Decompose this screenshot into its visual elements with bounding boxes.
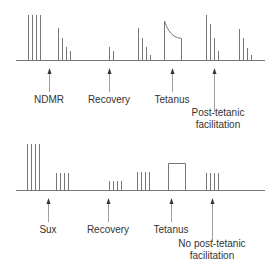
arrow-up-icon [107, 198, 111, 204]
label-post-tetanic-line2: facilitation [186, 119, 250, 131]
label-sux: Sux [33, 224, 63, 236]
arrow-up-icon [48, 68, 52, 74]
label-recovery: Recovery [84, 94, 134, 106]
ndmr-trace [16, 15, 265, 61]
label-tetanus: Tetanus [150, 94, 194, 106]
tetanus-sustained-box [169, 164, 186, 191]
arrow-up-icon [171, 68, 175, 74]
sux-trace [16, 144, 265, 191]
arrow-up-icon [213, 68, 217, 74]
tetanus-fade-curve [165, 21, 182, 60]
label-no-post-tetanic-line1: No post-tetanic [172, 238, 252, 250]
label-tetanus-2: Tetanus [149, 224, 193, 236]
label-post-tetanic-line1: Post-tetanic [186, 107, 250, 119]
arrow-up-icon [108, 68, 112, 74]
arrow-up-icon [170, 198, 174, 204]
label-ndmr: NDMR [29, 94, 69, 106]
label-recovery-2: Recovery [83, 224, 133, 236]
arrow-up-icon [211, 198, 215, 204]
label-no-post-tetanic-line2: facilitation [172, 250, 252, 262]
arrow-up-icon [47, 198, 51, 204]
